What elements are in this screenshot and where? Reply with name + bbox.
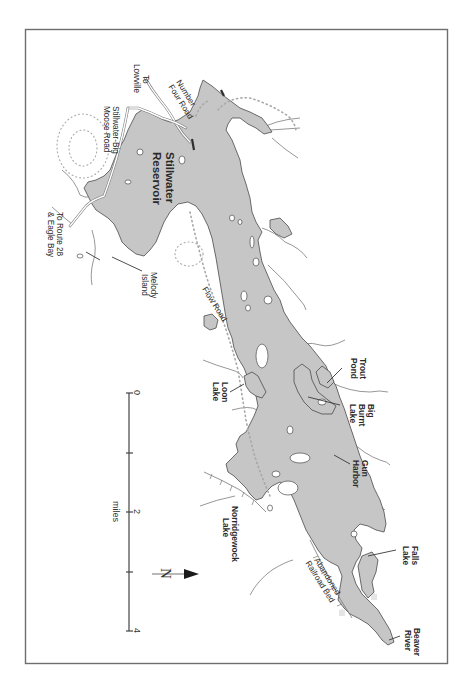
svg-text:Stillwater: Stillwater (164, 152, 176, 204)
scale-tick-4: 4 (132, 628, 142, 633)
north-letter: N (158, 568, 174, 579)
label-stillwater-big-moose-road: Stillwater-Big Moose Road (102, 106, 120, 154)
scale-tick-0: 0 (132, 390, 142, 395)
map: Stillwater Reservoir Number Four Road To… (0, 0, 471, 687)
svg-text:Moose Road: Moose Road (102, 106, 111, 153)
label-to-route-28: To Route 28 & Eagle Bay (46, 212, 64, 258)
svg-text:River: River (403, 630, 413, 652)
scale-tick-2: 2 (132, 509, 142, 514)
svg-text:Island: Island (140, 274, 149, 296)
svg-text:Harbor: Harbor (351, 460, 361, 488)
svg-text:& Eagle Bay: & Eagle Bay (46, 212, 55, 258)
svg-text:Reservoir: Reservoir (151, 152, 163, 206)
label-trout-pond: Trout Pond (349, 358, 368, 379)
label-loon-lake: Loon Lake (211, 382, 230, 402)
svg-text:Lake: Lake (348, 404, 358, 423)
svg-text:Lake: Lake (401, 546, 411, 565)
svg-text:To Route 28: To Route 28 (55, 212, 64, 257)
label-stillwater-reservoir: Stillwater Reservoir (151, 152, 176, 206)
svg-text:Pond: Pond (349, 358, 359, 379)
scale-unit-label: miles (111, 501, 121, 523)
svg-text:Melody: Melody (149, 272, 158, 299)
svg-text:Lowville: Lowville (132, 64, 141, 94)
svg-text:Lake: Lake (211, 382, 221, 401)
svg-text:Stillwater-Big: Stillwater-Big (111, 106, 120, 154)
label-melody-island: Melody Island (140, 272, 158, 299)
svg-text:Lake: Lake (221, 518, 231, 537)
label-falls-lake: Falls Lake (401, 546, 420, 565)
svg-text:To: To (141, 75, 150, 84)
